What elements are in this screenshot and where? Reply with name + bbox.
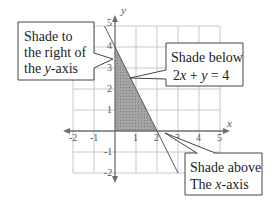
svg-text:5: 5: [217, 132, 222, 143]
callout-below-line: Shade below 2x + y = 4: [130, 43, 244, 86]
svg-text:-2: -2: [69, 132, 77, 143]
svg-text:Shade below: Shade below: [171, 50, 244, 65]
y-axis-label: y: [120, 4, 126, 16]
callout-right-of-y-axis: Shade to the right of the y-axis: [18, 22, 113, 80]
x-axis-label: x: [226, 117, 232, 129]
svg-text:4: 4: [107, 40, 112, 51]
svg-text:-1: -1: [90, 132, 98, 143]
svg-text:Shade above: Shade above: [190, 160, 261, 175]
svg-text:the y-axis: the y-axis: [24, 61, 78, 76]
svg-text:5: 5: [107, 17, 112, 28]
svg-text:1: 1: [133, 132, 138, 143]
svg-text:4: 4: [196, 132, 201, 143]
svg-text:2: 2: [154, 132, 159, 143]
svg-text:-1: -1: [104, 146, 112, 157]
callout-above-x-axis: Shade above The x-axis: [165, 133, 262, 195]
svg-text:-2: -2: [104, 167, 112, 178]
svg-text:The x-axis: The x-axis: [190, 177, 249, 192]
svg-text:2: 2: [107, 83, 112, 94]
y-tick-labels: 5 4 3 2 1 -1 -2: [104, 17, 112, 178]
svg-text:Shade to: Shade to: [24, 29, 73, 44]
svg-text:1: 1: [107, 104, 112, 115]
svg-text:3: 3: [107, 62, 112, 73]
inequality-graph: y x -2 -1 1 2 3 4 5 5 4 3 2 1 -1 -2 Shad…: [0, 0, 277, 209]
x-tick-labels: -2 -1 1 2 3 4 5: [69, 132, 222, 143]
svg-text:2x + y = 4: 2x + y = 4: [173, 68, 229, 83]
svg-text:the right of: the right of: [24, 45, 87, 60]
